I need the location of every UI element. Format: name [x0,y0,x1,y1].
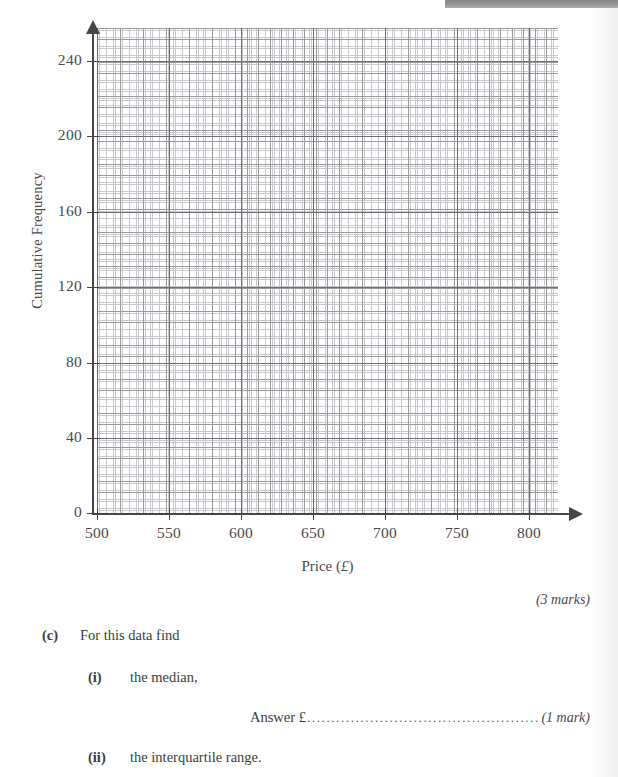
x-axis-tick-label: 700 [355,524,415,542]
y-axis-tick [87,61,99,62]
y-axis-tick [87,212,99,213]
marks-allocation-3: (3 marks) [536,592,590,608]
question-part-c-i-marker: (i) [88,669,130,686]
y-axis-tick [87,438,99,439]
question-part-c-ii-text: the interquartile range. [130,749,262,766]
x-axis-tick [385,509,386,520]
major-gridline-vertical [529,28,530,514]
x-axis-tick-label: 750 [427,524,487,542]
x-axis-tick [241,509,242,520]
x-axis-title: Price (£) [97,558,558,575]
major-gridline-vertical [97,28,98,514]
y-axis-tick-label: 0 [36,503,82,521]
pound-symbol-icon: £ [341,558,349,574]
y-axis-tick-label: 240 [36,51,82,69]
y-axis-tick [87,287,99,288]
x-axis-tick [97,509,98,520]
major-gridline-vertical [241,28,242,514]
question-part-c-marker: (c) [42,627,80,644]
x-axis-tick [313,509,314,520]
x-axis-title-prefix: Price ( [301,558,341,574]
x-axis-tick-label: 800 [499,524,559,542]
x-axis-tick [457,509,458,520]
y-axis-line [92,32,94,515]
x-axis-arrow-icon [569,507,583,521]
major-gridline-horizontal [97,363,558,364]
question-part-c-ii-marker: (ii) [88,749,130,766]
y-axis-tick-label: 40 [36,428,82,446]
major-gridline-horizontal [97,438,558,439]
y-axis-tick [87,136,99,137]
y-axis-tick-label: 80 [36,353,82,371]
x-axis-title-suffix: ) [349,558,354,574]
y-axis-arrow-icon [86,20,100,34]
x-axis-tick-label: 600 [211,524,271,542]
question-part-c-text: For this data find [80,627,179,644]
x-axis-line [92,513,572,515]
x-axis-tick-label: 500 [67,524,127,542]
question-part-c: (c) For this data find [42,627,179,644]
answer-dotted-line[interactable]: ........................................… [307,710,540,726]
major-gridline-vertical [385,28,386,514]
question-part-c-i-text: the median, [130,669,198,686]
question-part-c-ii: (ii) the interquartile range. [88,749,262,766]
answer-line-median[interactable]: Answer £ ...............................… [250,709,590,726]
marks-allocation-1: (1 mark) [541,710,590,726]
cumulative-frequency-graph: 240 200 160 120 80 40 0 500 550 600 650 … [0,0,618,600]
major-gridline-vertical [313,28,314,514]
major-gridline-horizontal [97,287,558,288]
major-gridline-horizontal [97,61,558,62]
x-axis-tick [529,509,530,520]
major-gridline-horizontal [97,212,558,213]
y-axis-tick [87,363,99,364]
graph-grid [97,28,558,514]
y-axis-title: Cumulative Frequency [29,141,46,341]
x-axis-tick-label: 650 [283,524,343,542]
answer-label: Answer £ [250,709,306,726]
major-gridline-horizontal [97,136,558,137]
major-gridline-vertical [457,28,458,514]
x-axis-tick [169,509,170,520]
major-gridline-vertical [169,28,170,514]
x-axis-tick-label: 550 [139,524,199,542]
question-part-c-i: (i) the median, [88,669,198,686]
